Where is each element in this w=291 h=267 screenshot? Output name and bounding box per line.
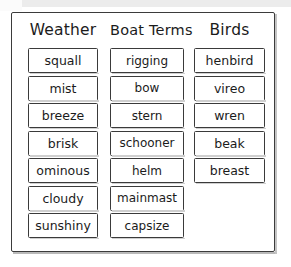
word-box[interactable]: breast [194,158,265,183]
word-label: wren [214,108,245,123]
worksheet-page: Weather squall mist breeze brisk ominous… [0,0,291,267]
word-box[interactable]: rigging [110,48,184,73]
word-label: brisk [48,136,78,151]
word-label: sunshiny [35,218,91,233]
word-box[interactable]: helm [110,158,184,183]
word-box[interactable]: capsize [110,213,184,238]
word-box[interactable]: stern [110,103,184,128]
word-box[interactable]: beak [194,131,265,156]
word-label: mainmast [117,191,177,205]
frame-shadow-bottom [13,252,277,254]
column-header-birds: Birds [194,12,265,48]
word-box[interactable]: vireo [194,76,265,101]
column-header-weather: Weather [28,12,98,48]
word-box[interactable]: breeze [28,103,98,128]
word-label: ominous [36,163,89,178]
scan-edge-corner [0,0,22,11]
word-box[interactable]: ominous [28,158,98,183]
word-label: cloudy [42,191,83,206]
column-header-boat-terms: Boat Terms [110,12,184,48]
word-box[interactable]: brisk [28,131,98,156]
column-boat-terms: Boat Terms rigging bow stern schooner he… [110,12,184,252]
word-label: henbird [206,53,254,68]
word-box[interactable]: mist [28,76,98,101]
word-label: stern [132,109,163,123]
word-label: breeze [42,108,84,123]
word-label: helm [132,164,162,178]
frame-shadow-right [275,14,277,254]
word-label: rigging [126,54,168,68]
word-label: breast [210,163,250,178]
word-box[interactable]: squall [28,48,98,73]
word-box[interactable]: mainmast [110,186,184,211]
word-label: squall [45,53,82,68]
word-box[interactable]: wren [194,103,265,128]
column-birds: Birds henbird vireo wren beak breast [194,12,265,252]
word-label: mist [49,81,76,96]
scan-edge-strip [0,0,291,7]
word-box[interactable]: sunshiny [28,213,98,238]
column-weather: Weather squall mist breeze brisk ominous… [28,12,98,252]
word-label: capsize [125,219,170,233]
word-box[interactable]: cloudy [28,186,98,211]
word-box[interactable]: schooner [110,131,184,156]
word-box[interactable]: henbird [194,48,265,73]
word-label: schooner [119,136,174,150]
word-box[interactable]: bow [110,76,184,101]
word-label: bow [135,81,160,95]
word-label: beak [214,136,245,151]
word-label: vireo [214,81,245,96]
word-sort-columns: Weather squall mist breeze brisk ominous… [11,12,275,252]
